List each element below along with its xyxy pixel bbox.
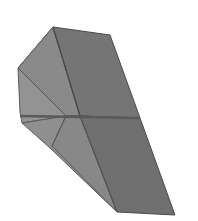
figure-canvas xyxy=(0,0,198,221)
polyhedron-figure xyxy=(0,0,198,221)
